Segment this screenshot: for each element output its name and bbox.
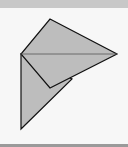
geometry-figure: [0, 0, 128, 147]
